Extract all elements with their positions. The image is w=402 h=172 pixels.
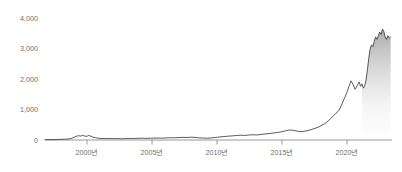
chart-background (0, 0, 402, 172)
y-tick-label-2000: 2,000 (20, 75, 38, 84)
x-tick-label-2020: 2020년 (336, 148, 359, 157)
x-tick-label-2005: 2005년 (141, 148, 164, 157)
x-tick-label-2015: 2015년 (271, 148, 294, 157)
x-tick-label-2000: 2000년 (76, 148, 99, 157)
y-tick-label-1000: 1,000 (20, 105, 38, 114)
chart-container: 4,000 3,000 2,000 1,000 0 2000년 2005년 20… (0, 0, 402, 172)
chart-canvas: 4,000 3,000 2,000 1,000 0 2000년 2005년 20… (0, 0, 402, 172)
x-tick-label-2010: 2010년 (206, 148, 229, 157)
y-tick-label-3000: 3,000 (20, 44, 38, 53)
y-tick-label-0: 0 (34, 136, 38, 145)
y-tick-label-4000: 4,000 (20, 14, 38, 23)
